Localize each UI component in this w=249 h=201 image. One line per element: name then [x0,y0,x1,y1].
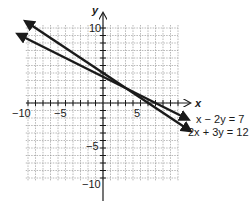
y-tick-label-neg10: −10 [82,178,101,190]
y-tick-label-10: 10 [89,22,101,34]
x-axis-label: x [194,97,202,109]
equation-label-1: x − 2y = 7 [196,113,244,125]
equation-label-2: 2x + 3y = 12 [188,126,249,138]
x-tick-label-neg5: −5 [54,107,67,119]
x-tick-label-neg10: −10 [12,107,31,119]
line-2x-plus-3y-eq-12 [28,23,188,129]
x-tick-label-5: 5 [134,107,140,119]
y-tick-label-neg5: −5 [86,140,99,152]
coordinate-plane: x y −10 −5 5 10 −5 −10 x − 2y = 7 2x + 3… [0,0,249,201]
y-axis-label: y [91,4,99,16]
